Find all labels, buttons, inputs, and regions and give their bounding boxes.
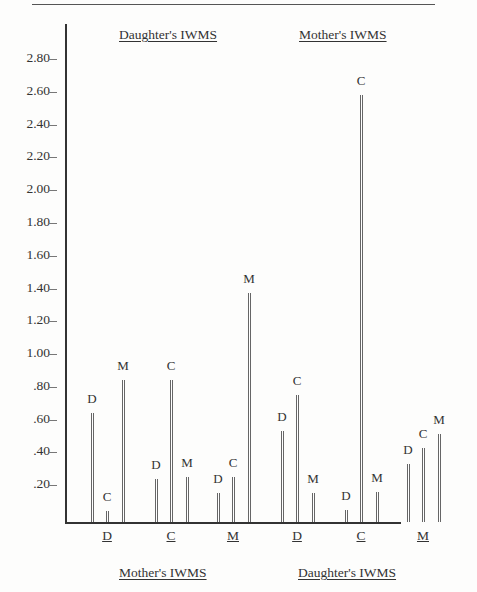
bar-M <box>438 434 441 522</box>
x-category-label: D <box>287 528 307 544</box>
y-tick-mark <box>48 223 57 224</box>
bar-M <box>248 293 251 522</box>
bar-label: M <box>367 470 387 486</box>
y-tick-mark <box>48 420 57 421</box>
y-tick-label: 2.40 <box>0 116 50 132</box>
y-tick-mark <box>48 485 57 486</box>
top-rule <box>32 4 435 5</box>
y-tick-mark <box>48 92 57 93</box>
bar-M <box>312 493 315 522</box>
y-tick-label: .80 <box>0 378 50 394</box>
bar-D <box>345 510 348 522</box>
bar-label: C <box>161 358 181 374</box>
x-category-label: M <box>223 528 243 544</box>
y-tick-mark <box>48 452 57 453</box>
bar-label: M <box>113 358 133 374</box>
bar-label: D <box>208 471 228 487</box>
y-tick-label: 1.40 <box>0 280 50 296</box>
bar-label: M <box>303 471 323 487</box>
y-tick-label: 2.00 <box>0 181 50 197</box>
bar-label: C <box>351 73 371 89</box>
bottom-header-left: Mother's IWMS <box>119 565 207 581</box>
bar-label: M <box>239 271 259 287</box>
bar-label: D <box>398 442 418 458</box>
bar-label: D <box>336 488 356 504</box>
bar-M <box>376 492 379 522</box>
bar-label: D <box>146 457 166 473</box>
top-header-right: Mother's IWMS <box>299 27 387 43</box>
x-category-label: C <box>351 528 371 544</box>
y-tick-mark <box>48 321 57 322</box>
y-tick-label: 1.80 <box>0 214 50 230</box>
y-tick-label: 2.20 <box>0 148 50 164</box>
y-tick-label: 1.60 <box>0 247 50 263</box>
bar-label: D <box>272 409 292 425</box>
bar-label: C <box>223 455 243 471</box>
bar-D <box>217 493 220 522</box>
bar-M <box>122 380 125 522</box>
y-tick-mark <box>48 354 57 355</box>
bar-C <box>170 380 173 522</box>
x-axis <box>65 522 401 524</box>
y-tick-label: 2.80 <box>0 50 50 66</box>
y-tick-label: 1.20 <box>0 312 50 328</box>
y-tick-mark <box>48 256 57 257</box>
y-axis <box>65 24 67 523</box>
bar-label: C <box>287 373 307 389</box>
bar-D <box>281 431 284 522</box>
bar-C <box>360 95 363 522</box>
bottom-header-right: Daughter's IWMS <box>298 565 396 581</box>
y-tick-mark <box>48 190 57 191</box>
bar-D <box>407 464 410 522</box>
bar-D <box>155 479 158 522</box>
bar-C <box>296 395 299 522</box>
top-header-left: Daughter's IWMS <box>119 27 217 43</box>
x-category-label: C <box>161 528 181 544</box>
x-category-label: D <box>97 528 117 544</box>
y-tick-label: 2.60 <box>0 83 50 99</box>
y-tick-mark <box>48 157 57 158</box>
bar-C <box>232 477 235 522</box>
y-tick-label: .40 <box>0 443 50 459</box>
y-tick-mark <box>48 59 57 60</box>
y-tick-label: .60 <box>0 411 50 427</box>
bar-C <box>422 448 425 522</box>
bar-label: M <box>177 455 197 471</box>
x-category-label: M <box>413 528 433 544</box>
bar-D <box>91 413 94 522</box>
y-tick-label: .20 <box>0 476 50 492</box>
y-tick-mark <box>48 289 57 290</box>
bar-label: D <box>82 391 102 407</box>
bar-M <box>186 477 189 522</box>
y-tick-label: 1.00 <box>0 345 50 361</box>
bar-label: M <box>429 412 449 428</box>
bar-C <box>106 511 109 522</box>
bar-label: C <box>97 489 117 505</box>
y-tick-mark <box>48 125 57 126</box>
y-tick-mark <box>48 387 57 388</box>
